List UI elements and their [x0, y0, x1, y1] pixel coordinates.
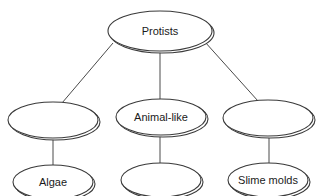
node-protists: Protists [108, 11, 214, 53]
node-slime-molds: Slime molds [228, 163, 310, 196]
node-label-slime-molds: Slime molds [238, 174, 298, 186]
edge-root-left [62, 43, 113, 103]
node-label-protists: Protists [142, 25, 179, 37]
node-algae: Algae [13, 165, 95, 196]
node-label-algae: Algae [39, 176, 67, 188]
edge-root-right [205, 42, 258, 101]
node-level1-right [223, 100, 315, 138]
node-label-animal-like: Animal-like [134, 111, 188, 123]
node-level1-left [8, 102, 100, 140]
node-animal-like: Animal-like [116, 99, 208, 137]
protists-hierarchy-diagram: Protists Animal-like Algae Slime molds [0, 0, 322, 196]
node-level2-center [121, 163, 203, 196]
